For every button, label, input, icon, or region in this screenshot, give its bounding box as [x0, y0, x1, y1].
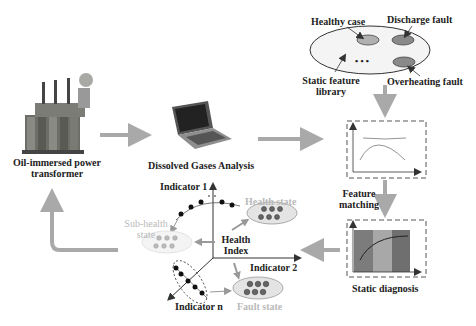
indicator1-label: Indicator 1 [160, 181, 207, 192]
subhealth-line2: state [121, 229, 171, 240]
ellipsis-label: • • • [355, 56, 369, 67]
static-diagnosis-chart [347, 220, 426, 277]
health-index-label: Health Index [218, 234, 254, 256]
feature-library [310, 26, 430, 76]
health-index-line2: Index [218, 245, 254, 256]
overheating-fault-ellipse [393, 57, 415, 67]
feature-matching-chart [347, 121, 426, 178]
static-feature-line2: library [298, 86, 364, 97]
laptop-icon [172, 101, 232, 149]
subhealth-line1: Sub-health [121, 218, 171, 229]
healthy-case-label: Healthy case [311, 16, 365, 27]
fault-state-label: Fault state [237, 301, 282, 312]
axis-indicatorn [170, 258, 213, 298]
health-state-label: Health state [245, 196, 296, 207]
transformer-label-line2: transformer [2, 168, 112, 179]
discharge-fault-ellipse [392, 35, 414, 45]
discharge-fault-label: Discharge fault [387, 14, 452, 25]
dga-label: Dissolved Gases Analysis [148, 160, 254, 171]
overheating-fault-label: Overheating fault [387, 76, 463, 87]
arrow-health-to-transformer [52, 200, 118, 250]
static-feature-library-label: Static feature library [298, 75, 364, 97]
transformer-label: Oil-immersed power transformer [2, 157, 112, 179]
health-index-line1: Health [218, 234, 254, 245]
transformer-label-line1: Oil-immersed power [2, 157, 112, 168]
feature-matching-line1: Feature [334, 188, 384, 199]
indicatorn-label: Indicator n [175, 301, 223, 312]
feature-matching-line2: matching [334, 199, 384, 210]
subhealth-state-label: Sub-health state [121, 218, 171, 240]
indicator2-label: Indicator 2 [250, 262, 297, 273]
transformer-icon [22, 73, 93, 154]
feature-matching-label: Feature matching [334, 188, 384, 210]
static-diagnosis-label: Static diagnosis [352, 283, 418, 294]
static-feature-line1: Static feature [298, 75, 364, 86]
